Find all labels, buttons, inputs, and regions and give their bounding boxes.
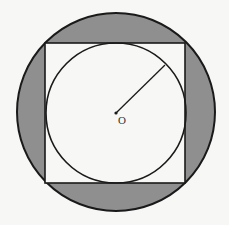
geometry-figure: O <box>0 0 229 225</box>
center-label: O <box>118 114 126 126</box>
